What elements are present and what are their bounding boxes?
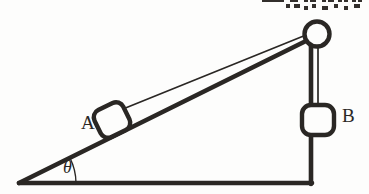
block-b-body	[302, 105, 334, 135]
qr-code-watermark	[262, 0, 366, 14]
block-a-body	[91, 100, 133, 141]
qr-code-icon	[262, 0, 366, 14]
string-incline-segment	[118, 33, 311, 111]
block-b	[302, 105, 334, 135]
physics-diagram-figure: A B θ	[0, 0, 369, 194]
block-a-label: A	[81, 113, 95, 132]
diagram-canvas	[0, 0, 369, 194]
block-a	[91, 100, 133, 141]
block-b-label: B	[342, 106, 355, 125]
pulley-wheel	[305, 22, 330, 47]
angle-theta-label: θ	[63, 158, 72, 176]
